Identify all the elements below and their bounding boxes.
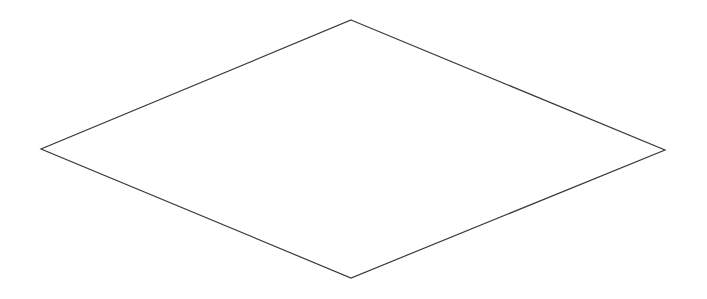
diamond-shape — [41, 20, 665, 278]
diagram-canvas — [0, 0, 707, 299]
diagram-svg — [0, 0, 707, 299]
